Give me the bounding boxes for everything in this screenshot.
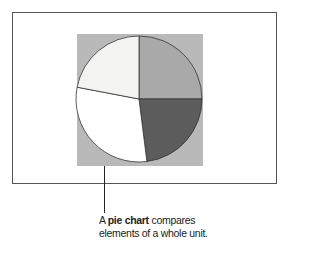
caption-prefix: A — [99, 214, 108, 226]
caption-line-2: elements of a whole unit. — [99, 227, 249, 240]
pie-slices — [76, 36, 202, 162]
caption-line-1: A pie chart compares — [99, 214, 249, 227]
caption-suffix: compares — [149, 214, 195, 226]
caption: A pie chart compares elements of a whole… — [99, 214, 249, 240]
caption-bold-term: pie chart — [108, 214, 149, 226]
callout-line — [104, 166, 105, 213]
